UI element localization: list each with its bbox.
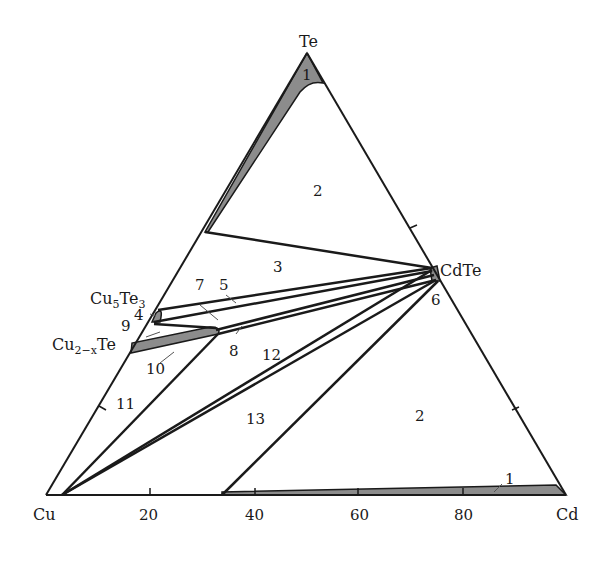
tie-lines [62, 232, 438, 495]
vertex-label-cd: Cd [556, 505, 578, 524]
region-label-9: 9 [121, 317, 131, 335]
tick-label-60: 60 [350, 506, 369, 524]
compound-label-cu2xte: Cu2−xTe [52, 335, 116, 357]
shaded-regions [131, 53, 566, 495]
region-label-1-top: 1 [302, 66, 312, 84]
region-label-3: 3 [273, 258, 283, 276]
region-label-8: 8 [229, 342, 239, 360]
region-label-11: 11 [116, 395, 135, 413]
region-label-4: 4 [134, 306, 144, 324]
region-label-2-lower: 2 [415, 407, 425, 425]
region-label-2-upper: 2 [313, 182, 323, 200]
triangle-outline [46, 53, 566, 495]
tick-label-20: 20 [139, 506, 158, 524]
vertex-label-cu: Cu [33, 505, 56, 524]
vertex-label-te: Te [299, 32, 318, 51]
region-10-shade [131, 327, 219, 353]
region-label-1-bottom: 1 [505, 470, 515, 488]
region-label-13: 13 [246, 410, 265, 428]
edge-te-cd [307, 53, 566, 495]
tick-label-80: 80 [454, 506, 473, 524]
compound-label-cdte: CdTe [440, 261, 481, 280]
region-label-7: 7 [195, 276, 205, 294]
region-label-6: 6 [431, 291, 441, 309]
tick-label-40: 40 [245, 506, 264, 524]
ternary-diagram: Te Cu Cd CdTe Cu5Te3 Cu2−xTe 20 40 60 80… [0, 0, 610, 561]
region-label-10: 10 [146, 360, 165, 378]
region-label-5: 5 [219, 276, 229, 294]
region-label-12: 12 [262, 346, 281, 364]
